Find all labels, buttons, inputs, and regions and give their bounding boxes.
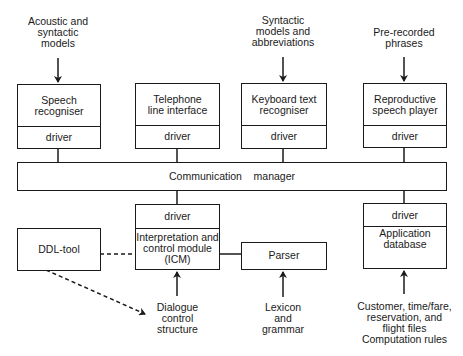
application-database-driver: driver [364,204,446,226]
speech-recogniser-title: Speech recogniser [18,85,100,126]
dialogue-control-label: Dialogue control structure [140,302,215,335]
application-database-box[interactable]: driver Application database [363,203,447,269]
speech-recogniser-box[interactable]: Speech recogniser driver [17,84,101,149]
keyboard-recogniser-box[interactable]: Keyboard text recogniser driver [241,83,327,149]
parser-box[interactable]: Parser [241,242,327,270]
speech-models-label: Acoustic and syntactic models [8,16,108,49]
speech-player-driver: driver [364,126,446,146]
application-database-title: Application database [364,227,446,251]
ddl-tool-box[interactable]: DDL-tool [17,228,101,271]
parser-label: Parser [242,243,326,268]
keyboard-recogniser-driver: driver [242,126,326,147]
ddl-tool-label: DDL-tool [18,229,100,269]
application-files-label: Customer, time/fare, reservation, and fl… [346,301,463,345]
icm-title: Interpretation and control module (ICM) [136,229,219,268]
speech-player-title: Reproductive speech player [364,84,446,125]
keyboard-recogniser-title: Keyboard text recogniser [242,84,326,125]
telephone-interface-title: Telephone line interface [136,84,219,125]
icm-box[interactable]: driver Interpretation and control module… [135,204,220,270]
icm-driver: driver [136,205,219,227]
telephone-interface-driver: driver [136,126,219,147]
keyboard-models-label: Syntactic models and abbreviations [228,15,338,48]
communication-manager-box[interactable]: Communication manager [17,162,447,191]
telephone-interface-box[interactable]: Telephone line interface driver [135,83,220,149]
prerecorded-phrases-label: Pre-recorded phrases [354,27,454,49]
communication-manager-label: Communication manager [18,163,446,189]
lexicon-grammar-label: Lexicon and grammar [248,302,318,335]
speech-player-box[interactable]: Reproductive speech player driver [363,83,447,148]
speech-recogniser-driver: driver [18,127,100,147]
